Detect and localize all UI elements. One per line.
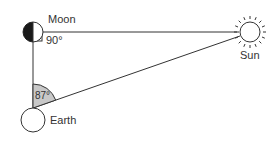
earth-label: Earth [50,115,76,126]
earth-angle-label: 87° [35,91,50,101]
sun-label: Sun [240,50,260,61]
moon-earth-sun-diagram [0,0,273,141]
moon-icon [23,22,43,42]
moon-label: Moon [48,14,76,25]
earth-sun-line [33,36,240,108]
earth-icon [21,108,45,132]
moon-angle-label: 90° [46,35,63,46]
